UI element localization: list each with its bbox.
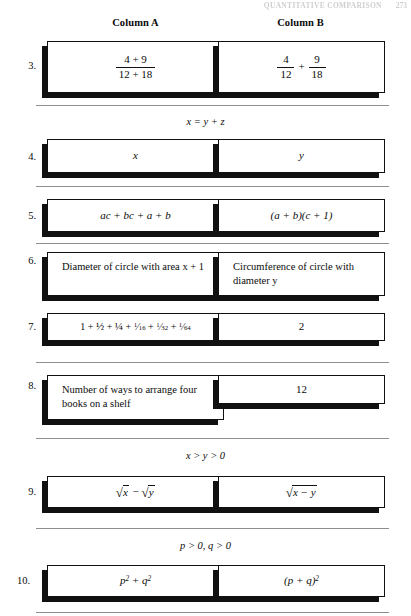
row-10-column-b-content: (p + q)2 [219, 566, 384, 596]
radicand: x − y [292, 485, 317, 499]
fraction-first: 4 12 [277, 54, 294, 79]
box-shadow-bottom [213, 596, 379, 602]
radical: √ x − y [286, 485, 317, 499]
question-row-4: 4. x y [0, 139, 411, 183]
row-5-column-a-content: ac + bc + a + b [48, 200, 223, 231]
box-shadow-bottom [42, 92, 218, 98]
radical: √ y [142, 485, 156, 499]
row-6-column-b-box[interactable]: Circumference of circle with diameter y [218, 252, 385, 296]
row-8-column-a-box[interactable]: Number of ways to arrange four books on … [47, 375, 224, 420]
column-a-header: Column A [47, 17, 224, 28]
algebraic-expression: ac + bc + a + b [100, 209, 171, 223]
algebraic-expression: (a + b)(c + 1) [271, 209, 333, 223]
fraction-numerator: 9 [311, 54, 323, 66]
question-row-6: 6. Diameter of circle with area x + 1 Ci… [0, 252, 411, 304]
row-9-column-a-box[interactable]: √ x − √ y [47, 476, 224, 508]
row-3-column-a-box[interactable]: 4 + 9 12 + 18 [47, 41, 224, 93]
given-condition-row-10: p > 0, q > 0 [0, 540, 411, 551]
row-8-column-b-box[interactable]: 12 [218, 375, 385, 404]
row-divider [36, 105, 389, 106]
row-9-column-a-content: √ x − √ y [48, 477, 223, 507]
row-number: 9. [14, 486, 36, 497]
row-4-column-b-box[interactable]: y [218, 139, 385, 173]
radical-sign: √ [142, 486, 149, 499]
row-number: 7. [14, 321, 36, 332]
worksheet-page: QUANTITATIVE COMPARISON 273 Column A Col… [0, 0, 411, 616]
box-shadow-bottom [42, 295, 218, 301]
row-10-column-a-box[interactable]: p2 + q2 [47, 565, 224, 597]
box-shadow-bottom [213, 507, 379, 513]
box-shadow-bottom [213, 340, 379, 346]
row-4-column-b-content: y [219, 140, 384, 172]
row-number: 10. [8, 575, 30, 586]
row-divider [36, 612, 389, 613]
column-headers: Column A Column B [0, 17, 411, 31]
given-condition-row-4: x = y + z [0, 116, 411, 127]
radicand: x [123, 485, 130, 499]
number-value: 2 [299, 320, 305, 334]
fraction-denominator: 12 [277, 67, 294, 80]
row-3-column-b-box[interactable]: 4 12 + 9 18 [218, 41, 385, 93]
row-number: 6. [14, 255, 36, 266]
question-row-10: 10. p2 + q2 (p + q)2 [0, 565, 411, 607]
question-row-7: 7. 1 + ½ + ¼ + 1⁄16 + 1⁄32 + 1⁄64 2 [0, 313, 411, 353]
series-term: ¼ [115, 320, 123, 334]
box-shadow-bottom [42, 231, 218, 237]
row-4-column-a-content: x [48, 140, 223, 172]
minus-operator: − [132, 485, 138, 499]
running-head-title: QUANTITATIVE COMPARISON [264, 1, 382, 10]
column-b-header: Column B [212, 17, 389, 28]
box-shadow-bottom [42, 507, 218, 513]
series-term: 1⁄64 [179, 320, 191, 334]
row-6-column-a-box[interactable]: Diameter of circle with area x + 1 [47, 252, 224, 296]
row-10-column-b-box[interactable]: (p + q)2 [218, 565, 385, 597]
variable-expression: y [299, 149, 304, 163]
fraction-sum-expression: 4 12 + 9 18 [276, 54, 326, 79]
radical-expression: √ x − y [286, 485, 317, 500]
algebraic-expression: (p + q)2 [284, 574, 319, 588]
prose-expression: Circumference of circle with diameter y [233, 260, 378, 288]
row-divider [36, 186, 389, 187]
row-divider [36, 362, 389, 363]
row-6-column-b-content: Circumference of circle with diameter y [219, 253, 384, 295]
row-3-column-a-content: 4 + 9 12 + 18 [48, 42, 223, 92]
box-shadow-bottom [42, 172, 218, 178]
prose-expression: Diameter of circle with area x + 1 [62, 260, 204, 274]
row-5-column-b-content: (a + b)(c + 1) [219, 200, 384, 231]
series-expression: 1 + ½ + ¼ + 1⁄16 + 1⁄32 + 1⁄64 [80, 320, 190, 334]
box-shadow-bottom [213, 172, 379, 178]
series-term: 1⁄32 [156, 320, 168, 334]
algebraic-expression: p2 + q2 [120, 574, 151, 588]
radical: √ x [116, 485, 130, 499]
radical-sign: √ [116, 486, 123, 499]
fraction-second: 9 18 [309, 54, 326, 79]
fraction-expression: 4 + 9 12 + 18 [115, 54, 157, 79]
box-shadow-bottom [213, 92, 379, 98]
page-number: 273 [396, 1, 407, 10]
row-7-column-b-box[interactable]: 2 [218, 313, 385, 341]
row-7-column-a-box[interactable]: 1 + ½ + ¼ + 1⁄16 + 1⁄32 + 1⁄64 [47, 313, 224, 341]
question-row-3: 3. 4 + 9 12 + 18 4 12 [0, 41, 411, 99]
box-shadow-bottom [213, 231, 379, 237]
row-6-column-a-content: Diameter of circle with area x + 1 [48, 253, 223, 295]
row-8-column-b-content: 12 [219, 376, 384, 403]
series-term: 1⁄16 [134, 320, 146, 334]
row-7-column-a-content: 1 + ½ + ¼ + 1⁄16 + 1⁄32 + 1⁄64 [48, 314, 223, 340]
row-9-column-b-box[interactable]: √ x − y [218, 476, 385, 508]
radicand: y [148, 485, 155, 499]
running-head: QUANTITATIVE COMPARISON 273 [205, 0, 407, 11]
fraction-denominator: 12 + 18 [116, 67, 156, 80]
radical-sign: √ [286, 485, 293, 498]
variable-expression: x [133, 149, 138, 163]
row-3-column-b-content: 4 12 + 9 18 [219, 42, 384, 92]
question-row-9: 9. √ x − √ y [0, 476, 411, 518]
row-5-column-a-box[interactable]: ac + bc + a + b [47, 199, 224, 232]
row-4-column-a-box[interactable]: x [47, 139, 224, 173]
series-term: ½ [96, 320, 104, 334]
row-divider [36, 438, 389, 439]
box-shadow-bottom [42, 340, 218, 346]
row-5-column-b-box[interactable]: (a + b)(c + 1) [218, 199, 385, 232]
row-9-column-b-content: √ x − y [219, 477, 384, 507]
row-8-column-a-content: Number of ways to arrange four books on … [48, 376, 223, 419]
fraction: 4 + 9 12 + 18 [116, 54, 156, 79]
